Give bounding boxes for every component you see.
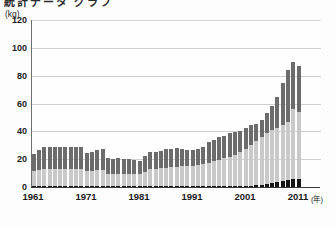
bar-segment-top (138, 161, 142, 174)
x-axis-unit-label: (年) (311, 193, 323, 204)
bar-segment-middle (281, 125, 285, 181)
bar-segment-middle (122, 174, 126, 186)
y-tick-120: 120 (1, 15, 27, 25)
bar-segment-top (101, 149, 105, 170)
bar-segment-bottom (191, 186, 195, 187)
bar-segment-top (42, 147, 46, 169)
bar-segment-top (297, 66, 301, 112)
bar-segment-bottom (207, 186, 211, 187)
x-tick-1981: 1981 (128, 191, 149, 202)
bar-segment-bottom (138, 186, 142, 187)
bar-segment-top (275, 97, 279, 127)
bar-segment-top (244, 128, 248, 149)
bar-segment-middle (143, 172, 147, 187)
bar-segment-top (228, 133, 232, 156)
bar-segment-top (122, 159, 126, 174)
bar-segment-middle (37, 170, 41, 186)
bar-segment-middle (127, 174, 131, 186)
bar-segment-middle (63, 169, 67, 186)
clipped-title-strip: 統計データ グラフ (0, 0, 336, 9)
bar-segment-middle (175, 167, 179, 186)
bar-segment-top (58, 147, 62, 168)
bar-segment-bottom (275, 182, 279, 187)
bar-segment-middle (201, 164, 205, 186)
bar-segment-bottom (63, 186, 67, 187)
bar-segment-middle (58, 169, 62, 186)
bar-segment-top (249, 125, 253, 145)
bar-segment-top (207, 142, 211, 162)
bar-segment-top (286, 70, 290, 121)
bar-segment-middle (164, 168, 168, 186)
chart-root: 統計データ グラフ (kg) 020406080100120 196119711… (0, 0, 336, 226)
bar-segment-middle (53, 169, 57, 186)
bar-segment-top (85, 153, 89, 171)
bar-segment-bottom (154, 186, 158, 187)
bar-segment-middle (265, 133, 269, 184)
bar-segment-middle (169, 167, 173, 186)
y-tick-80: 80 (1, 71, 27, 81)
bar-segment-top (164, 149, 168, 168)
bar-segment-middle (228, 157, 232, 186)
bar-segment-bottom (180, 186, 184, 187)
bar-segment-bottom (37, 186, 41, 187)
bar-segment-middle (106, 174, 110, 187)
bar-segment-middle (180, 166, 184, 186)
bar-segment-top (32, 154, 36, 171)
bar-segment-top (169, 149, 173, 168)
bar-segment-bottom (143, 186, 147, 187)
bar-segment-top (212, 140, 216, 161)
bar-segment-middle (132, 174, 136, 186)
bar-segment-middle (185, 166, 189, 186)
bar-segment-middle (95, 170, 99, 186)
y-tick-100: 100 (1, 43, 27, 53)
bar-segment-top (79, 147, 83, 168)
bar-segment-top (222, 136, 226, 159)
bar-segment-bottom (254, 185, 258, 187)
bar-segment-middle (111, 174, 115, 186)
bar-segment-bottom (79, 186, 83, 187)
bar-segment-top (53, 147, 57, 168)
bar-segment-middle (286, 122, 290, 180)
bar-segment-bottom (48, 186, 52, 187)
bar-segment-bottom (164, 186, 168, 187)
bar-segment-top (159, 151, 163, 168)
bar-segment-middle (138, 174, 142, 186)
bar-segment-bottom (132, 186, 136, 187)
bar-segment-top (132, 160, 136, 174)
bar-segment-bottom (90, 186, 94, 187)
bar-segment-top (291, 62, 295, 109)
bar-segment-bottom (228, 186, 232, 187)
bar-segment-bottom (233, 186, 237, 187)
bar-segment-middle (260, 137, 264, 185)
bar-segment-bottom (53, 186, 57, 187)
bar-segment-top (217, 137, 221, 160)
bar-segment-bottom (169, 186, 173, 187)
bar-segment-bottom (159, 186, 163, 187)
bar-segment-top (116, 158, 120, 174)
bar-segment-middle (90, 171, 94, 186)
bar-segment-top (260, 120, 264, 137)
bar-segment-middle (48, 169, 52, 186)
bar-segment-bottom (106, 186, 110, 187)
bar-segment-bottom (175, 186, 179, 187)
bar-segment-bottom (270, 183, 274, 187)
bar-segment-middle (74, 169, 78, 186)
bar-segment-top (127, 159, 131, 174)
bar-segment-bottom (281, 181, 285, 187)
bar-segment-middle (238, 152, 242, 186)
bar-segment-middle (212, 161, 216, 186)
bar-segment-middle (297, 112, 301, 179)
bar-segment-bottom (297, 179, 301, 187)
bar-segment-bottom (217, 186, 221, 187)
bar-segment-middle (85, 171, 89, 186)
bar-segment-bottom (32, 186, 36, 187)
bar-segment-top (191, 150, 195, 166)
bar-segment-top (270, 106, 274, 130)
bar-segment-bottom (74, 186, 78, 187)
bar-segment-middle (254, 141, 258, 186)
x-tick-1961: 1961 (22, 191, 43, 202)
bar-segment-middle (207, 163, 211, 187)
bar-segment-top (63, 147, 67, 168)
bar-segment-middle (159, 168, 163, 186)
bar-segment-middle (217, 160, 221, 186)
